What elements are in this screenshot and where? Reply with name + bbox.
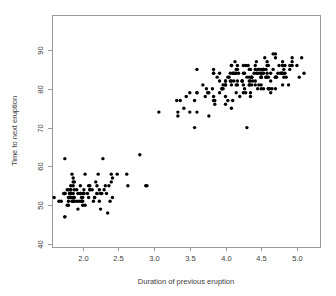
data-point (224, 95, 227, 98)
data-point (195, 68, 198, 71)
data-point (290, 60, 293, 63)
x-tick-label: 4.5 (256, 254, 266, 263)
data-point (290, 64, 293, 67)
data-point (115, 172, 118, 175)
data-point (75, 188, 78, 191)
data-point (230, 83, 233, 86)
data-point (72, 176, 75, 179)
data-point (204, 95, 207, 98)
data-point (98, 200, 101, 203)
data-point (82, 188, 85, 191)
y-tick-label: 50 (36, 201, 45, 209)
data-point (86, 192, 89, 195)
data-point (249, 79, 252, 82)
x-tick-label: 3.0 (149, 254, 159, 263)
data-point (63, 157, 66, 160)
plot-canvas: 2.02.53.03.54.04.55.0 405060708090 Durat… (0, 0, 336, 296)
data-point (271, 52, 274, 55)
data-point (282, 75, 285, 78)
data-point (94, 180, 97, 183)
data-point (107, 184, 110, 187)
data-point (233, 60, 236, 63)
data-point (63, 192, 66, 195)
data-point (242, 83, 245, 86)
data-point (224, 79, 227, 82)
data-point (106, 211, 109, 214)
data-point (138, 153, 141, 156)
data-point (99, 192, 102, 195)
data-point (76, 192, 79, 195)
data-point (218, 72, 221, 75)
data-point (269, 91, 272, 94)
data-point (111, 196, 114, 199)
figure-background (0, 0, 336, 296)
data-point (230, 64, 233, 67)
data-point (193, 99, 196, 102)
data-point (95, 184, 98, 187)
data-point (232, 72, 235, 75)
data-point (110, 172, 113, 175)
data-point (235, 83, 238, 86)
data-point (224, 103, 227, 106)
x-axis-label: Duration of previous eruption (138, 277, 234, 286)
data-point (73, 180, 76, 183)
data-point (70, 172, 73, 175)
data-point (265, 72, 268, 75)
data-point (68, 192, 71, 195)
data-point (207, 91, 210, 94)
data-point (245, 126, 248, 129)
data-point (250, 83, 253, 86)
data-point (295, 64, 298, 67)
data-point (302, 72, 305, 75)
data-point (221, 83, 224, 86)
data-point (254, 68, 257, 71)
data-point (212, 95, 215, 98)
data-point (287, 83, 290, 86)
data-point (274, 75, 277, 78)
data-point (255, 60, 258, 63)
data-point (69, 188, 72, 191)
data-point (75, 200, 78, 203)
data-point (252, 72, 255, 75)
data-point (277, 64, 280, 67)
data-point (242, 64, 245, 67)
data-point (279, 72, 282, 75)
data-point (274, 87, 277, 90)
data-point (237, 72, 240, 75)
data-point (179, 99, 182, 102)
data-point (99, 207, 102, 210)
data-point (243, 87, 246, 90)
data-point (66, 188, 69, 191)
data-point (76, 207, 79, 210)
data-point (227, 75, 230, 78)
scatter-plot-figure: 2.02.53.03.54.04.55.0 405060708090 Durat… (0, 0, 336, 296)
data-point (185, 95, 188, 98)
data-point (281, 64, 284, 67)
data-point (226, 99, 229, 102)
data-point (268, 87, 271, 90)
data-point (300, 56, 303, 59)
data-point (87, 184, 90, 187)
data-point (213, 103, 216, 106)
data-point (60, 200, 63, 203)
data-point (254, 83, 257, 86)
data-point (92, 200, 95, 203)
data-point (145, 184, 148, 187)
data-point (212, 99, 215, 102)
data-point (262, 72, 265, 75)
data-point (236, 79, 239, 82)
data-point (231, 99, 234, 102)
data-point (67, 200, 70, 203)
data-point (110, 180, 113, 183)
data-point (188, 91, 191, 94)
data-point (260, 83, 263, 86)
data-point (267, 75, 270, 78)
data-point (66, 204, 69, 207)
data-point (238, 95, 241, 98)
data-point (256, 72, 259, 75)
data-point (80, 200, 83, 203)
data-point (269, 79, 272, 82)
data-point (91, 188, 94, 191)
data-point (72, 196, 75, 199)
data-point (281, 83, 284, 86)
